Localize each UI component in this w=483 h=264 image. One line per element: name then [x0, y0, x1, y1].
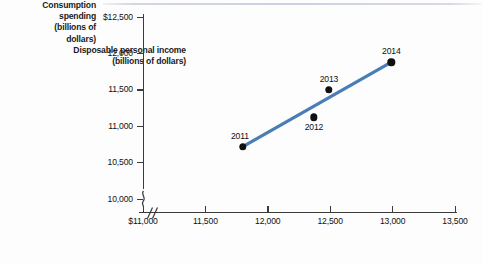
y-axis-tick [137, 17, 143, 18]
y-axis-tick [137, 199, 143, 200]
y-axis-title-line-1: Consumption [0, 0, 96, 11]
y-axis-tick-label: 11,500 [79, 84, 133, 94]
data-point [325, 86, 332, 93]
x-axis-tick [455, 206, 456, 212]
x-axis-tick-label: 13,500 [442, 216, 467, 226]
y-axis-tick-label: 12,000 [79, 48, 133, 58]
y-axis-tick-label: 11,000 [79, 121, 133, 131]
data-point-label: 2012 [305, 122, 324, 132]
data-point [310, 114, 317, 121]
data-point-label: 2011 [231, 131, 249, 141]
y-axis-title-line-3: (billions of [0, 22, 96, 33]
y-axis-title-line-4: dollars) [0, 34, 96, 45]
x-axis-tick [392, 206, 393, 212]
y-axis-tick [137, 89, 143, 90]
y-axis-tick-label: $12,500 [79, 12, 133, 22]
x-axis-line [139, 212, 457, 213]
x-axis-tick-label: 13,000 [380, 216, 405, 226]
x-axis-tick-label: 11,500 [193, 216, 218, 226]
data-point [239, 143, 246, 150]
y-axis-tick-label: 10,500 [79, 157, 133, 167]
data-point-label: 2014 [382, 46, 401, 56]
x-axis-tick-label: 12,500 [317, 216, 342, 226]
x-axis-tick [143, 206, 144, 212]
x-axis-tick [330, 206, 331, 212]
y-axis-tick [137, 162, 143, 163]
y-axis-title: Consumption spending (billions of dollar… [0, 0, 96, 45]
x-axis-tick-label: $11,000 [128, 216, 157, 226]
y-axis-line [143, 14, 144, 189]
data-point [388, 58, 395, 65]
y-axis-tick [137, 53, 143, 54]
chart-figure: Consumption spending (billions of dollar… [0, 0, 483, 264]
y-axis-tick [137, 126, 143, 127]
y-axis-tick-label: 10,000 [79, 194, 133, 204]
trend-line [243, 62, 392, 146]
data-point-label: 2013 [320, 74, 339, 84]
top-divider-rule [103, 3, 481, 5]
x-axis-tick [205, 206, 206, 212]
x-axis-tick [267, 206, 268, 212]
x-axis-tick-label: 12,000 [255, 216, 280, 226]
